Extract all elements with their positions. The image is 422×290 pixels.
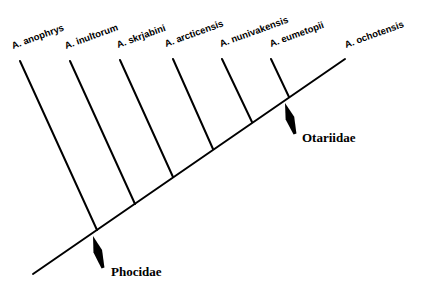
branch-line bbox=[120, 60, 173, 177]
taxon-label: A. ochotensis bbox=[343, 18, 405, 50]
family-label: Phocidae bbox=[111, 264, 162, 279]
taxon-labels: A. anophrysA. inultorumA. skrjabiniA. ar… bbox=[10, 14, 405, 51]
cladogram-backbone bbox=[33, 59, 345, 274]
taxon-label: A. inultorum bbox=[63, 21, 119, 50]
family-label: Otariidae bbox=[302, 130, 356, 145]
branch-line bbox=[20, 61, 97, 230]
taxon-label: A. anophrys bbox=[10, 22, 65, 51]
arrow-icon bbox=[93, 236, 104, 268]
arrow-icon bbox=[285, 103, 296, 134]
cladogram: A. anophrysA. inultorumA. skrjabiniA. ar… bbox=[0, 0, 422, 290]
branch-line bbox=[173, 59, 213, 149]
branches bbox=[20, 59, 289, 230]
taxon-label: A. skrjabini bbox=[115, 22, 167, 50]
branch-line bbox=[70, 61, 135, 204]
branch-line bbox=[222, 59, 252, 122]
branch-line bbox=[271, 59, 289, 97]
family-markers: PhocidaeOtariidae bbox=[93, 103, 356, 279]
taxon-label: A. arcticensis bbox=[163, 17, 225, 48]
